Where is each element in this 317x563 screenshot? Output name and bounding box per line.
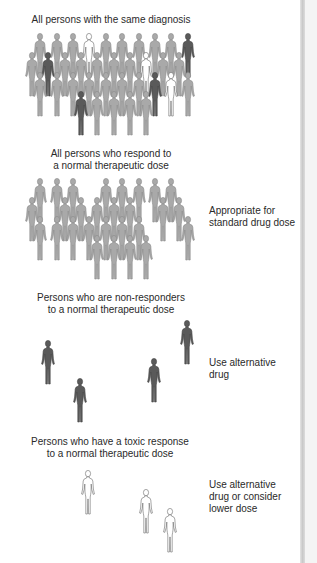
person-silhouette-icon [65, 216, 81, 262]
person-silhouette-icon [138, 489, 154, 535]
person-silhouette-icon [146, 358, 162, 404]
note-line: Use alternative [209, 357, 276, 369]
note-line: standard drug dose [209, 217, 295, 229]
note-alternative-drug: Use alternative drug [209, 357, 276, 381]
caption-line: to a normal therapeutic dose [22, 448, 198, 460]
person-silhouette-icon [73, 91, 89, 137]
adjacent-page-edge [305, 0, 317, 563]
caption-line: All persons who respond to [36, 148, 186, 160]
person-silhouette-icon [155, 197, 171, 243]
person-silhouette-icon [89, 91, 105, 137]
note-line: lower dose [209, 503, 281, 515]
person-silhouette-icon [138, 235, 154, 281]
person-silhouette-icon [80, 470, 96, 516]
caption-line: a normal therapeutic dose [36, 160, 186, 172]
note-line: Appropriate for [209, 205, 295, 217]
note-line: drug or consider [209, 491, 281, 503]
person-silhouette-icon [72, 378, 88, 424]
person-silhouette-icon [106, 91, 122, 137]
caption-responders: All persons who respond to a normal ther… [36, 148, 186, 172]
person-silhouette-icon [49, 72, 65, 118]
person-silhouette-icon [162, 508, 178, 554]
page-gutter [300, 0, 305, 563]
person-silhouette-icon [163, 72, 179, 118]
person-silhouette-icon [179, 320, 195, 366]
person-silhouette-icon [138, 91, 154, 137]
caption-line: to a normal therapeutic dose [26, 304, 196, 316]
note-line: Use alternative [209, 479, 281, 491]
person-silhouette-icon [32, 216, 48, 262]
person-silhouette-icon [49, 216, 65, 262]
person-silhouette-icon [32, 72, 48, 118]
caption-line: All persons with the same diagnosis [26, 14, 196, 26]
caption-toxic-response: Persons who have a toxic response to a n… [22, 436, 198, 460]
caption-non-responders: Persons who are non-responders to a norm… [26, 292, 196, 316]
person-silhouette-icon [106, 235, 122, 281]
caption-line: Persons who are non-responders [26, 292, 196, 304]
caption-all-diagnosed: All persons with the same diagnosis [26, 14, 196, 26]
person-silhouette-icon [180, 216, 196, 262]
note-line: drug [209, 369, 276, 381]
person-silhouette-icon [180, 72, 196, 118]
person-silhouette-icon [122, 91, 138, 137]
person-silhouette-icon [40, 340, 56, 386]
note-standard-dose: Appropriate for standard drug dose [209, 205, 295, 229]
note-lower-dose: Use alternative drug or consider lower d… [209, 479, 281, 515]
caption-line: Persons who have a toxic response [22, 436, 198, 448]
person-silhouette-icon [122, 235, 138, 281]
person-silhouette-icon [89, 235, 105, 281]
